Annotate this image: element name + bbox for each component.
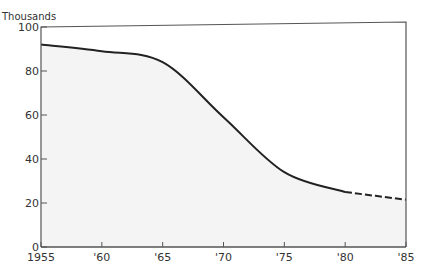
- y-tick-label: 60: [25, 109, 39, 122]
- x-tick-label: '80: [337, 251, 354, 264]
- y-tick-label: 80: [25, 65, 39, 78]
- chart-container: Thousands 020406080100 1955'60'65'70'75'…: [0, 0, 426, 274]
- x-tick-label: '85: [397, 251, 414, 264]
- x-tick-label: '65: [154, 251, 171, 264]
- y-tick-label: 20: [25, 197, 39, 210]
- y-tick-label: 100: [18, 21, 39, 34]
- plot-area: [41, 22, 406, 247]
- x-tick-label: '75: [276, 251, 293, 264]
- y-tick-label: 40: [25, 153, 39, 166]
- x-tick-label: 1955: [27, 251, 55, 264]
- area-chart: Thousands 020406080100 1955'60'65'70'75'…: [0, 0, 426, 274]
- x-tick-label: '70: [215, 251, 232, 264]
- area-fill: [41, 45, 406, 247]
- x-tick-label: '60: [93, 251, 110, 264]
